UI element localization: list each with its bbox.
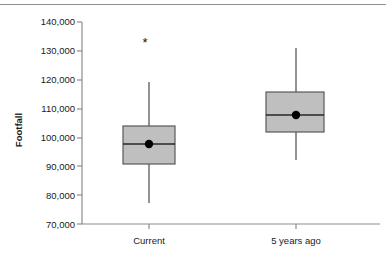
y-tick-label: 110,000 [41,103,75,114]
y-axis-title-group: Footfall [13,113,24,147]
x-tick-label-5-years-ago: 5 years ago [271,235,321,246]
mean-marker [292,111,300,119]
y-tick-label: 80,000 [46,190,75,201]
y-axis-ticks-group [77,22,82,224]
y-axis-title: Footfall [13,113,24,147]
y-tick-labels-group: 140,000 130,000 120,000 110,000 100,000 … [41,16,75,230]
x-tick-label-current: Current [133,235,165,246]
outlier-asterisk-marker: * [142,35,147,50]
y-tick-label: 100,000 [41,132,75,143]
plot-area: Footfall 140,000 130,000 120,000 110,000… [0,0,386,262]
y-tick-label: 130,000 [41,45,75,56]
y-tick-label: 120,000 [41,74,75,85]
box-plot-chart: Footfall 140,000 130,000 120,000 110,000… [0,0,386,262]
box-plot-series-current: * [123,35,175,203]
y-tick-label: 70,000 [46,219,75,230]
box-plot-series-5-years-ago [266,48,324,160]
mean-marker [145,140,153,148]
y-tick-label: 90,000 [46,161,75,172]
y-tick-label: 140,000 [41,16,75,27]
